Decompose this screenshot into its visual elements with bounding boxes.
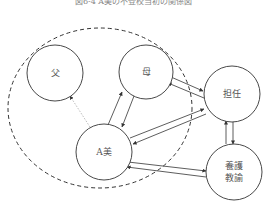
node-school-nurse: 養護 教諭 xyxy=(206,144,262,200)
node-father: 父 xyxy=(27,45,83,101)
node-teacher: 担任 xyxy=(204,66,260,122)
ami-to-mother-arrow xyxy=(108,92,122,125)
teacher-to-mother-arrow xyxy=(168,83,204,98)
nurse-to-ami-arrow xyxy=(127,167,206,177)
mother-to-teacher-arrow xyxy=(171,77,203,91)
father-ami-link xyxy=(70,96,90,127)
ami-to-nurse-arrow xyxy=(128,162,206,171)
mother-to-ami-arrow xyxy=(122,96,134,127)
node-nurse-label-2: 教諭 xyxy=(225,172,243,183)
node-ami-label: A美 xyxy=(95,146,112,157)
node-ami: A美 xyxy=(76,124,132,180)
teacher-to-ami-arrow xyxy=(133,114,206,144)
node-father-label: 父 xyxy=(51,68,60,78)
node-mother-label: 母 xyxy=(142,67,151,77)
relationship-diagram: 父 母 A美 担任 養護 教諭 xyxy=(0,0,267,202)
node-nurse-label-1: 養護 xyxy=(225,160,243,171)
ami-to-teacher-arrow xyxy=(130,109,204,138)
node-mother: 母 xyxy=(119,45,173,99)
node-teacher-label: 担任 xyxy=(223,88,241,99)
